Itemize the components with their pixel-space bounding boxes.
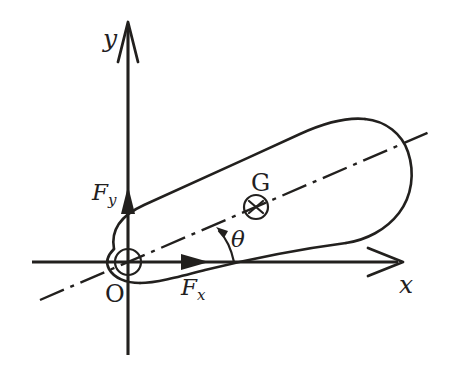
theta-arrowhead-icon [216,227,228,238]
angle-theta-label: θ [231,228,245,251]
x-axis [32,248,403,276]
force-fy-label: Fy [92,181,116,208]
force-fy-subscript: y [108,191,116,209]
body-nose-curve [346,119,412,243]
diagram-canvas [0,0,450,371]
x-axis-label: x [399,272,413,297]
force-fx-symbol: F [181,274,197,300]
centre-of-gravity-marker [244,195,268,219]
force-fx-label: Fx [181,276,205,303]
fy-arrowhead-icon [121,186,135,214]
rigid-body-outline [107,119,411,283]
fx-arrowhead-icon [181,254,209,270]
body-tip-curve [107,249,140,283]
force-fx-arrow [181,254,209,270]
centre-of-gravity-label: G [251,171,270,195]
figure-root: y x O G θ Fy Fx [0,0,450,371]
origin-label: O [105,282,125,306]
force-fy-arrow [121,186,135,214]
y-axis-label: y [103,26,117,51]
force-fy-symbol: F [92,179,108,205]
force-fx-subscript: x [197,286,205,304]
